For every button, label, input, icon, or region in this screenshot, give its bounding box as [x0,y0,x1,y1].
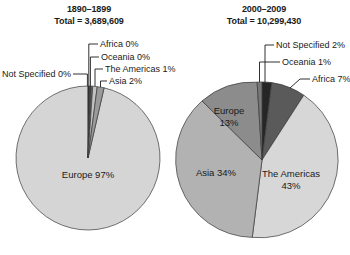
left-inside-label-europe: Europe 97% [62,169,115,180]
left-leader-americas [95,69,103,86]
left-pie-svg: Africa 0% Oceania 0% The Americas 1% Asi… [0,0,178,255]
right-callout-oceania: Oceania 1% [282,57,331,67]
right-leader-not-specified [265,45,274,82]
right-leader-oceania [260,62,281,82]
right-callout-not-specified: Not Specified 2% [276,40,345,50]
left-callout-americas: The Americas 1% [105,64,176,74]
left-chart-panel: 1890–1899 Total = 3,689,609 [0,0,178,255]
right-inside-label-americas: The Americas [262,168,320,179]
left-callout-oceania: Oceania 0% [101,52,150,62]
left-callout-africa: Africa 0% [100,39,139,49]
right-pie-svg: Not Specified 2% Oceania 1% Africa 7% Eu… [178,0,350,255]
right-leader-africa [290,79,310,88]
left-callout-not-specified: Not Specified 0% [2,69,71,79]
right-chart-panel: 2000–2009 Total = 10,299,430 [178,0,350,255]
left-callout-asia: Asia 2% [109,76,142,86]
left-leader-asia [101,81,108,87]
two-pie-chart-figure: 1890–1899 Total = 3,689,609 [0,0,350,255]
right-inside-label-europe: Europe [214,105,245,116]
right-inside-label-asia: Asia 34% [196,167,237,178]
left-leader-not-specified [73,74,87,86]
right-inside-label-europe-value: 13% [219,117,239,128]
right-inside-label-americas-value: 43% [281,180,301,191]
right-callout-africa: Africa 7% [312,74,350,84]
